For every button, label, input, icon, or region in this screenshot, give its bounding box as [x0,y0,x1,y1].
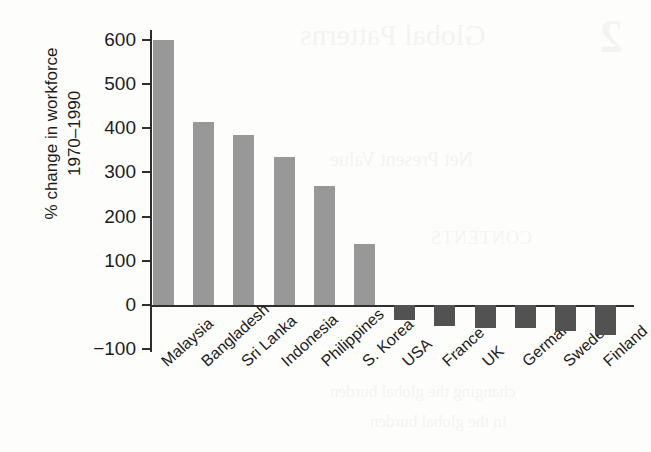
y-axis-tick-label: 200 [36,206,136,228]
bar-indonesia [274,157,295,305]
y-axis-tick-label: 300 [36,161,136,183]
y-axis-tick [142,39,151,41]
y-axis-tick-label: 500 [36,73,136,95]
plot-area [151,40,631,306]
y-axis-tick [142,216,151,218]
y-axis-tick-label: 0 [36,294,136,316]
bar-france [434,305,455,326]
bar-usa [394,305,415,320]
y-axis-tick [142,171,151,173]
bar-s-korea [354,244,375,305]
bar-uk [475,305,496,328]
y-axis-tick-label: −100 [36,338,136,360]
y-axis-tick [142,83,151,85]
bar-finland [595,305,616,335]
y-axis-tick [142,304,151,306]
bar-sri-lanka [233,135,254,305]
x-axis-label-france: France [439,324,488,371]
bar-sweden [555,305,576,331]
x-axis-label-uk: UK [479,342,508,370]
y-axis-tick-label: 100 [36,250,136,272]
y-axis-tick [142,260,151,262]
bar-malaysia [153,40,174,305]
y-axis-tick [142,348,151,350]
bar-germany [515,305,536,328]
y-axis-tick [142,127,151,129]
y-axis-tick-label: 600 [36,29,136,51]
bar-philippines [314,186,335,305]
bar-bangladesh [193,122,214,305]
y-axis-tick-label: 400 [36,117,136,139]
